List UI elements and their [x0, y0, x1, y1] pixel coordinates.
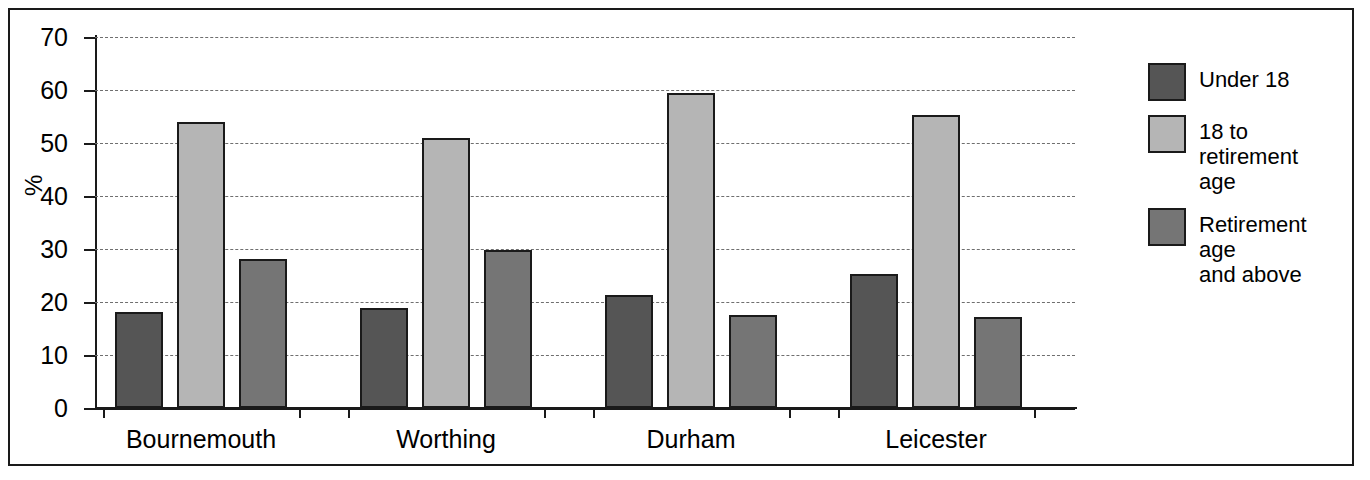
chart-legend: Under 1818 to retirement ageRetirement a…	[1148, 63, 1348, 301]
x-tick-mark	[789, 407, 791, 418]
x-tick-mark	[838, 407, 840, 418]
y-tick-label-70: 70	[0, 25, 68, 50]
y-tick-mark-60	[84, 90, 95, 92]
y-tick-label-10: 10	[0, 343, 68, 368]
y-tick-label-30: 30	[0, 237, 68, 262]
bar	[177, 122, 225, 408]
y-tick-mark-50	[84, 143, 95, 145]
y-tick-label-40: 40	[0, 184, 68, 209]
y-tick-label-0: 0	[0, 396, 68, 421]
bar	[239, 259, 287, 408]
bar	[912, 115, 960, 408]
x-tick-mark	[1034, 407, 1036, 418]
category-label-durham: Durham	[647, 427, 736, 452]
legend-label: Retirement age and above	[1199, 208, 1348, 287]
y-tick-mark-70	[84, 37, 95, 39]
x-tick-mark	[299, 407, 301, 418]
legend-label: Under 18	[1199, 63, 1290, 92]
bar	[115, 312, 163, 408]
legend-item: Retirement age and above	[1148, 208, 1348, 287]
y-tick-mark-20	[84, 302, 95, 304]
legend-item: 18 to retirement age	[1148, 115, 1348, 194]
x-tick-mark	[544, 407, 546, 418]
bar	[605, 295, 653, 408]
legend-swatch-icon	[1148, 115, 1186, 153]
y-tick-mark-30	[84, 249, 95, 251]
y-tick-mark-40	[84, 196, 95, 198]
legend-swatch-icon	[1148, 63, 1186, 101]
category-label-leicester: Leicester	[885, 427, 986, 452]
category-label-worthing: Worthing	[396, 427, 496, 452]
legend-item: Under 18	[1148, 63, 1348, 101]
bar	[667, 93, 715, 408]
bar	[850, 274, 898, 408]
category-label-bournemouth: Bournemouth	[126, 427, 276, 452]
x-tick-mark	[103, 407, 105, 418]
legend-swatch-icon	[1148, 208, 1186, 246]
bar	[729, 315, 777, 408]
y-tick-mark-10	[84, 355, 95, 357]
legend-label: 18 to retirement age	[1199, 115, 1348, 194]
chart-figure: % 010203040506070 BournemouthWorthingDur…	[0, 0, 1370, 480]
bar	[422, 138, 470, 408]
y-tick-label-50: 50	[0, 131, 68, 156]
plot-area	[95, 37, 1075, 408]
x-tick-mark	[348, 407, 350, 418]
bar	[974, 317, 1022, 408]
bar	[484, 250, 532, 408]
gridline-70	[95, 37, 1075, 38]
x-tick-mark	[593, 407, 595, 418]
bar	[360, 308, 408, 408]
y-tick-label-60: 60	[0, 78, 68, 103]
y-tick-label-20: 20	[0, 290, 68, 315]
y-tick-mark-0	[84, 408, 95, 410]
gridline-60	[95, 90, 1075, 91]
